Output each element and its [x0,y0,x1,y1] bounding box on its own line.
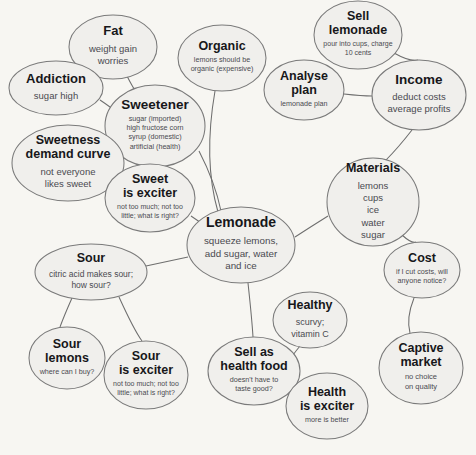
node-sour-is-exciter[interactable]: Souris exciternot too much; not toolittl… [104,341,188,409]
nodes-layer: Fatweight gainworriesAddictionsugar high… [9,1,466,439]
node-title-sweetness-demand-curve: Sweetness [36,133,101,147]
node-title-healthy: Healthy [287,298,332,312]
node-title-sweet-is-exciter: is exciter [123,186,177,200]
node-desc-captive-market: on quality [405,382,437,391]
node-sell-lemonade[interactable]: Selllemonadepour into cups, charge10 cen… [314,1,402,69]
node-title-sweetener: Sweetener [121,97,189,112]
edge-lemonade-sell-health-food [248,283,253,337]
node-desc-materials: ice [367,204,379,215]
node-title-sell-lemonade: lemonade [329,23,387,37]
node-lemonade[interactable]: Lemonadesqueeze lemons,add sugar, watera… [187,207,295,283]
node-title-health-is-exciter: Health [308,385,346,399]
edge-income-materials [386,130,412,160]
node-desc-lemonade: and ice [225,260,257,271]
node-title-sell-as-health-food: health food [220,359,287,373]
node-desc-addiction: sugar high [34,90,78,101]
node-desc-sour-is-exciter: little; what is right? [117,389,175,397]
node-sell-as-health-food[interactable]: Sell ashealth fooddoesn't have totaste g… [208,337,300,405]
node-sour-lemons[interactable]: Sourlemonswhere can I buy? [29,327,105,389]
node-desc-sell-as-health-food: doesn't have to [230,375,279,384]
node-organic[interactable]: Organiclemons should beorganic (expensiv… [178,25,266,91]
node-title-analyse-plan: Analyse [280,69,328,83]
node-desc-sweetener: syrup (domestic) [128,132,181,141]
node-title-sweet-is-exciter: Sweet [132,172,169,186]
edge-sell-lemonade-income [394,53,418,60]
node-title-sour-lemons: lemons [45,351,89,365]
node-desc-sweetener: artificial (health) [130,142,181,151]
node-title-analyse-plan: plan [291,83,317,97]
node-title-income: Income [395,72,443,87]
node-title-captive-market: market [401,355,443,369]
node-desc-lemonade: add sugar, water [205,248,278,259]
node-title-cost: Cost [408,251,437,265]
node-shape-addiction [9,61,103,115]
node-desc-organic: lemons should be [194,55,250,64]
node-desc-healthy: scurvy; [296,317,325,327]
node-title-sour-is-exciter: is exciter [119,363,173,377]
node-desc-fat: worries [97,55,129,66]
node-healthy[interactable]: Healthyscurvy;vitamin C [273,292,347,348]
node-title-health-is-exciter: is exciter [300,399,354,413]
node-desc-materials: cups [363,192,383,203]
node-desc-organic: organic (expensive) [191,64,254,73]
edge-lemonade-sour [146,257,188,266]
node-desc-materials: water [360,217,384,228]
edge-analyse-plan-income [344,94,372,96]
node-desc-sour-is-exciter: not too much; not too [113,380,179,387]
node-addiction[interactable]: Addictionsugar high [9,61,103,115]
node-desc-captive-market: no choice [405,372,437,381]
node-desc-sweetener: high fructose corn [126,123,183,132]
node-desc-sour-lemons: where can I buy? [39,367,95,376]
edge-materials-lemonade [295,216,328,237]
node-title-sell-lemonade: Sell [347,9,369,23]
node-title-sweetness-demand-curve: demand curve [26,147,111,161]
node-desc-sweetness-demand-curve: not everyone [41,166,96,177]
edge-sour-sour-lemons [60,298,72,327]
node-title-captive-market: Captive [398,341,443,355]
node-title-lemonade: Lemonade [206,214,276,230]
node-desc-sell-lemonade: 10 cents [345,49,372,56]
node-analyse-plan[interactable]: Analyseplanlemonade plan [264,60,344,120]
edge-cost-captive-market [409,298,414,333]
node-sour[interactable]: Sourcitric acid makes sour;how sour? [35,244,147,300]
node-desc-lemonade: squeeze lemons, [204,235,278,246]
node-desc-income: average profits [388,103,451,114]
mind-map-canvas: Fatweight gainworriesAddictionsugar high… [0,0,476,455]
node-desc-sour: citric acid makes sour; [49,269,133,279]
node-title-materials: Materials [346,161,400,175]
node-title-sour-lemons: Sour [53,337,82,351]
mind-map-svg: Fatweight gainworriesAddictionsugar high… [0,0,476,455]
node-captive-market[interactable]: Captivemarketno choiceon quality [379,332,463,404]
node-desc-sour: how sour? [71,280,110,290]
node-title-sour-is-exciter: Sour [132,349,161,363]
node-health-is-exciter[interactable]: Healthis excitermore is better [286,373,368,439]
node-income[interactable]: Incomededuct costsaverage profits [372,60,466,130]
node-desc-income: deduct costs [392,91,446,102]
edge-materials-cost [402,235,416,242]
node-desc-sweetness-demand-curve: likes sweet [45,178,92,189]
node-desc-sweet-is-exciter: little; what is right? [121,212,179,220]
node-title-organic: Organic [198,39,245,53]
node-title-sell-as-health-food: Sell as [234,345,274,359]
node-desc-sell-lemonade: pour into cups, charge [323,40,392,48]
node-desc-fat: weight gain [88,43,137,54]
node-desc-analyse-plan: lemonade plan [280,99,327,108]
node-title-addiction: Addiction [26,71,86,86]
node-title-sour: Sour [77,251,106,265]
node-sweet-is-exciter[interactable]: Sweetis exciternot too much; not toolitt… [105,164,195,232]
node-desc-healthy: vitamin C [291,329,329,339]
node-desc-materials: sugar [361,229,385,240]
node-cost[interactable]: Costif I cut costs, willanyone notice? [384,242,460,298]
node-desc-cost: anyone notice? [398,276,447,285]
node-desc-cost: if I cut costs, will [396,267,448,276]
node-desc-sweetener: sugar (imported) [129,114,182,123]
node-desc-health-is-exciter: more is better [305,415,350,424]
node-desc-materials: lemons [358,180,389,191]
node-desc-sell-as-health-food: taste good? [235,384,273,393]
edge-sour-sour-is-exciter [119,297,142,341]
node-materials[interactable]: Materialslemonscupsicewatersugar [327,158,419,246]
node-desc-sweet-is-exciter: not too much; not too [117,203,183,210]
node-title-fat: Fat [103,23,123,38]
